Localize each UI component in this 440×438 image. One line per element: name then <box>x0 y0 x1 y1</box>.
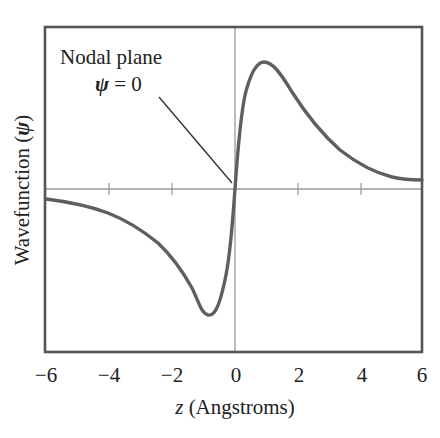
x-tick-label: 2 <box>294 363 305 387</box>
x-tick-label: −6 <box>35 363 57 387</box>
annotation-psi-equals-zero: ψ = 0 <box>95 72 142 96</box>
x-axis-label: z (Angstroms) <box>174 395 295 419</box>
y-axis-label-close: ) <box>10 115 34 122</box>
x-tick-label: 0 <box>231 363 242 387</box>
x-axis-variable: z <box>174 395 183 419</box>
y-axis-label: Wavefunction (ψ) <box>10 115 34 266</box>
x-axis-unit-text: (Angstroms) <box>189 395 295 419</box>
equals-zero: = 0 <box>109 72 142 96</box>
annotation-pointer-line <box>159 97 232 183</box>
x-tick-label: 6 <box>417 363 428 387</box>
wavefunction-chart: Nodal plane ψ = 0 −6 −4 −2 0 2 4 6 z (An… <box>0 0 440 438</box>
x-tick-labels: −6 −4 −2 0 2 4 6 <box>35 363 427 387</box>
annotation-nodal-plane: Nodal plane <box>60 45 162 69</box>
psi-symbol: ψ <box>95 72 110 96</box>
y-axis-psi-symbol: ψ <box>10 121 34 136</box>
y-axis-label-text: Wavefunction ( <box>10 136 34 266</box>
x-tick-label: −4 <box>98 363 121 387</box>
x-tick-label: −2 <box>161 363 183 387</box>
x-tick-label: 4 <box>357 363 368 387</box>
